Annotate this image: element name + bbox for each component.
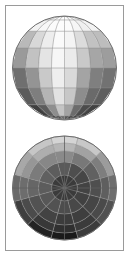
globe-cell [65,48,78,68]
globe-projection-figure [6,8,123,128]
polar-projection-figure [6,128,123,250]
globe-cell [52,68,65,88]
polar-svg [6,128,123,250]
figure-panel [0,0,131,258]
globe-cell [39,48,53,68]
globe-svg [6,8,123,128]
globe-cell [77,48,91,68]
polar-grid-group [13,136,117,240]
globe-cell [77,68,91,88]
globe-cell [52,48,65,68]
globe-cell [39,68,53,88]
globe-cell [65,68,78,88]
figure-frame [5,5,124,251]
